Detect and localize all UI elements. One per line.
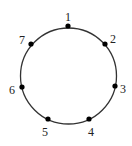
point-4-dot (86, 116, 91, 121)
point-5-dot (45, 116, 50, 121)
point-3-dot (112, 83, 117, 88)
circle-diagram: 1234567 (0, 0, 132, 146)
point-3-label: 3 (120, 82, 126, 96)
point-2-dot (102, 41, 107, 46)
point-1-label: 1 (65, 10, 71, 24)
point-2-label: 2 (110, 32, 116, 46)
point-7-label: 7 (19, 33, 25, 47)
point-7-dot (28, 41, 33, 46)
circle-outline (21, 28, 117, 124)
point-1-dot (65, 23, 70, 28)
point-6-label: 6 (9, 83, 15, 97)
point-4-label: 4 (88, 125, 94, 139)
point-6-dot (19, 84, 24, 89)
point-5-label: 5 (42, 125, 48, 139)
points-group: 1234567 (9, 10, 126, 139)
